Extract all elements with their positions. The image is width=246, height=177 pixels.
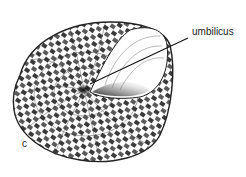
panel-label: c [22,139,27,149]
umbilicus [76,84,92,96]
shell-illustration: umbilicus c [0,0,246,177]
umbilicus-label: umbilicus [192,27,234,37]
